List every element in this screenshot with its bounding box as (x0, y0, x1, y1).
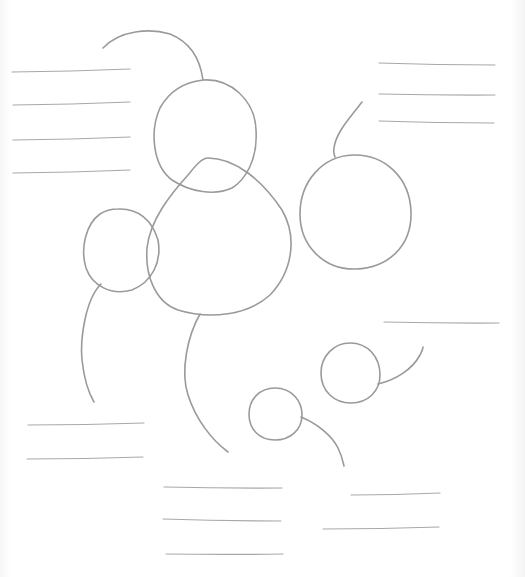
right-circle-node (300, 155, 411, 269)
placeholder-line (163, 519, 281, 521)
placeholder-line (13, 170, 130, 173)
placeholder-line (164, 487, 282, 488)
placeholder-group-bottom-left (27, 423, 144, 459)
placeholder-line (379, 63, 495, 65)
placeholder-line (13, 137, 130, 140)
placeholder-line (351, 493, 440, 495)
right-stem-connector (334, 102, 362, 157)
placeholder-line (379, 94, 495, 95)
placeholder-line (323, 527, 439, 529)
placeholder-line (384, 322, 499, 323)
small-circle-right-node (321, 343, 380, 403)
placeholder-group-bottom-center (163, 487, 283, 554)
placeholder-line (12, 69, 130, 72)
small-circle-bottom-node (249, 388, 302, 440)
diagram-nodes (84, 80, 411, 440)
sketch-canvas (0, 0, 525, 577)
placeholder-group-top-left (12, 69, 130, 173)
top-arc-connector (103, 31, 203, 80)
left-tail-connector (82, 284, 101, 402)
placeholder-line (27, 457, 143, 459)
placeholder-group-bottom-right (323, 493, 440, 529)
placeholder-line (13, 102, 130, 105)
center-tail-connector (185, 314, 228, 452)
placeholder-group-top-right (379, 63, 495, 123)
small-bottom-tail-connector (301, 417, 344, 466)
placeholder-line (28, 423, 144, 425)
small-right-tail-connector (378, 347, 423, 384)
top-circle-node (154, 80, 256, 192)
placeholder-line (379, 121, 494, 123)
center-blob-node (147, 158, 291, 315)
cluster-diagram (0, 0, 525, 577)
placeholder-group-mid-right (384, 322, 499, 323)
